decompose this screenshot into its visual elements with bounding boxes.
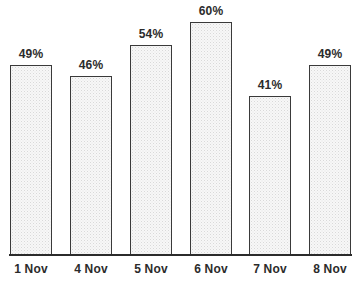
- bar-value-label: 60%: [181, 4, 241, 18]
- bar-rect[interactable]: [309, 65, 351, 256]
- bar-chart: 49% 46% 54% 60% 41% 49% 1 Nov 4 Nov 5 No…: [0, 0, 354, 295]
- bar-rect[interactable]: [130, 45, 172, 256]
- category-label: 4 Nov: [60, 262, 122, 276]
- category-axis: 1 Nov 4 Nov 5 Nov 6 Nov 7 Nov 8 Nov: [0, 262, 354, 286]
- category-label: 7 Nov: [239, 262, 301, 276]
- bar-rect[interactable]: [70, 76, 112, 256]
- bar-group: 46%: [70, 0, 112, 256]
- x-axis-line: [9, 254, 352, 256]
- category-label: 1 Nov: [0, 262, 62, 276]
- category-label: 5 Nov: [120, 262, 182, 276]
- bar-rect[interactable]: [10, 65, 52, 256]
- category-label: 6 Nov: [180, 262, 242, 276]
- bar-group: 49%: [10, 0, 52, 256]
- bar-value-label: 49%: [1, 47, 61, 61]
- bar-value-label: 49%: [300, 47, 354, 61]
- bar-group: 41%: [249, 0, 291, 256]
- bar-rect[interactable]: [190, 22, 232, 256]
- bar-value-label: 46%: [61, 58, 121, 72]
- bar-value-label: 54%: [121, 27, 181, 41]
- bar-group: 49%: [309, 0, 351, 256]
- category-label: 8 Nov: [299, 262, 354, 276]
- plot-area: 49% 46% 54% 60% 41% 49%: [0, 0, 354, 256]
- bar-group: 54%: [130, 0, 172, 256]
- bar-value-label: 41%: [240, 78, 300, 92]
- bar-group: 60%: [190, 0, 232, 256]
- bar-rect[interactable]: [249, 96, 291, 256]
